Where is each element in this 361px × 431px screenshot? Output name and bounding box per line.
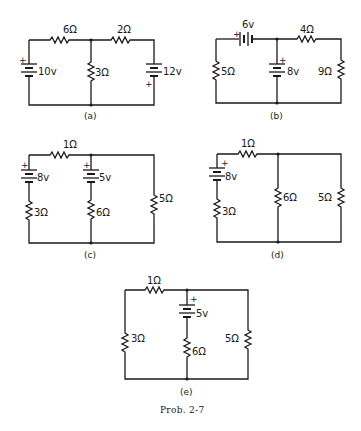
plus-b-middle: + [279,55,287,65]
plus-c-middle: + [83,160,91,170]
plus-a-left: + [19,55,27,65]
plus-a-right: + [145,79,153,89]
label-d-1ohm: 1Ω [241,138,255,149]
label-e-6ohm: 6Ω [192,346,206,357]
caption-e: (e) [180,387,193,397]
figure-caption: Prob. 2-7 [160,405,204,415]
label-d-6ohm: 6Ω [283,192,297,203]
label-d-3ohm: 3Ω [222,206,236,217]
label-e-5ohm: 5Ω [225,333,239,344]
label-c-3ohm: 3Ω [34,207,48,218]
label-b-9ohm: 9Ω [318,66,332,77]
label-b-6v: 6v [242,19,254,30]
label-e-5v: 5v [196,308,208,319]
label-c-5v: 5v [99,172,111,183]
caption-a: (a) [84,111,97,121]
plus-e-middle: + [190,294,198,304]
label-a-12v: 12v [163,66,182,77]
label-a-2ohm: 2Ω [117,24,131,35]
plus-d-left: + [221,158,229,168]
label-c-8v: 8v [37,172,49,183]
label-b-8v: 8v [287,66,299,77]
label-b-5ohm: 5Ω [221,66,235,77]
caption-b: (b) [270,111,283,121]
label-c-1ohm: 1Ω [63,139,77,150]
label-e-3ohm: 3Ω [131,333,145,344]
label-d-8v: 8v [225,171,237,182]
label-a-6ohm: 6Ω [63,24,77,35]
plus-b-top: + [233,29,241,39]
label-d-5ohm: 5Ω [318,192,332,203]
plus-c-left: + [21,160,29,170]
label-e-1ohm: 1Ω [147,275,161,286]
caption-d: (d) [271,250,284,260]
label-a-3ohm: 3Ω [95,67,109,78]
label-c-6ohm: 6Ω [96,207,110,218]
label-b-4ohm: 4Ω [300,24,314,35]
caption-c: (c) [84,250,96,260]
label-c-5ohm: 5Ω [159,193,173,204]
label-a-10v: 10v [38,66,57,77]
circuit-diagrams: 6Ω 2Ω 3Ω 10v 12v + + (a) 6v + 4Ω 5Ω + 8v… [0,0,361,431]
